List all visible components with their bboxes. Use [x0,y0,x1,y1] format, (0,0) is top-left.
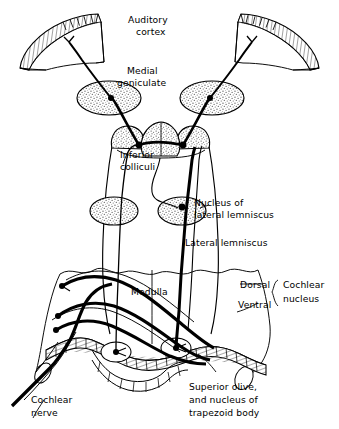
nucleus-lateral-lemniscus-left [90,197,138,225]
label-auditory-cortex-line2: cortex [136,26,166,37]
label-inferior-colliculi-line2: colliculi [120,161,155,172]
label-superior-olive-line1: Superior olive, [189,381,257,392]
label-superior-olive-line3: trapezoid body [189,407,260,418]
label-ventral: Ventral [238,299,271,310]
label-medulla: Medulla [131,286,168,297]
label-cochlear-nucleus-line2: nucleus [283,293,319,304]
label-auditory-cortex-line1: Auditory [128,14,168,25]
cochlear-nucleus-brace [272,280,278,306]
diagram-canvas: Auditory cortex Medial geniculate Inferi… [0,0,339,429]
label-cochlear-nerve-line1: Cochlear [31,394,72,405]
label-dorsal: Dorsal [240,279,270,290]
label-medial-geniculate-line1: Medial [127,65,158,76]
label-nucleus-lateral-lemniscus-line2: lateral lemniscus [194,209,274,220]
auditory-pathway-figure: Auditory cortex Medial geniculate Inferi… [0,0,339,429]
label-inferior-colliculi-line1: Inferior [120,149,154,160]
label-superior-olive-line2: and nucleus of [189,394,259,405]
label-lateral-lemniscus: Lateral lemniscus [185,237,268,248]
label-cochlear-nerve-line2: nerve [31,407,58,418]
label-nucleus-lateral-lemniscus-line1: Nucleus of [194,197,244,208]
lateral-lemniscus-left [116,145,136,350]
auditory-cortex-right [235,14,319,70]
auditory-cortex-left [20,14,104,70]
label-cochlear-nucleus-line1: Cochlear [283,279,324,290]
label-medial-geniculate-line2: geniculate [117,77,166,88]
